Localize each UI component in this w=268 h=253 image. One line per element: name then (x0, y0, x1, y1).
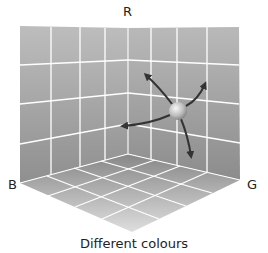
right-wall (128, 27, 240, 180)
colour-point-sphere (169, 102, 187, 120)
cube-graphic (0, 0, 268, 253)
rgb-cube-diagram: R B G Different colours (0, 0, 268, 253)
axis-label-r: R (123, 5, 132, 18)
caption: Different colours (0, 236, 268, 251)
axis-label-g: G (247, 178, 257, 191)
axis-label-b: B (8, 178, 17, 191)
